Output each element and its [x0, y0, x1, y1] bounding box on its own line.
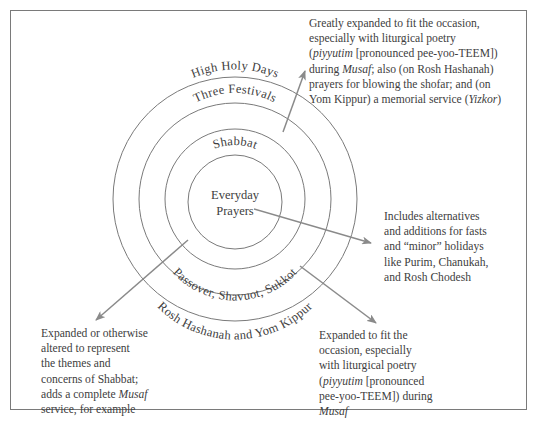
note-line: especially with liturgical poetry — [309, 31, 524, 46]
note-line: (piyyutim [pronounced — [319, 374, 489, 389]
note-line: Musaf — [319, 404, 489, 419]
note-line: Expanded to fit the — [319, 328, 489, 343]
note-everyday: Includes alternativesand additions for f… — [384, 209, 524, 285]
note-line: Yom Kippur) a memorial service (Yizkor) — [309, 92, 524, 107]
center-label-line-1: Everyday — [194, 187, 276, 203]
note-line: and additions for fasts — [384, 224, 524, 239]
center-label-everyday-prayers: Everyday Prayers — [194, 187, 276, 219]
note-line: (piyyutim [pronounced pee-yoo-TEEM]) — [309, 46, 524, 61]
note-line: adds a complete Musaf — [41, 387, 201, 402]
note-line: and Rosh Chodesh — [384, 270, 524, 285]
note-line: altered to represent — [41, 341, 201, 356]
note-line: during Musaf; also (on Rosh Hashanah) — [309, 62, 524, 77]
note-line: with liturgical poetry — [319, 358, 489, 373]
note-line: Expanded or otherwise — [41, 326, 201, 341]
note-high-holy-days: Greatly expanded to fit the occasion,esp… — [309, 16, 524, 107]
ring-label-three-festivals: Three Festivals — [191, 82, 279, 105]
note-line: like Purim, Chanukah, — [384, 255, 524, 270]
ring-label-shabbat: Shabbat — [211, 134, 260, 152]
note-line: and “minor” holidays — [384, 239, 524, 254]
note-line: Includes alternatives — [384, 209, 524, 224]
note-festivals: Expanded to fit theoccasion, especiallyw… — [319, 328, 489, 419]
note-line: concerns of Shabbat; — [41, 372, 201, 387]
note-line: pee-yoo-TEEM]) during — [319, 389, 489, 404]
note-line: Greatly expanded to fit the occasion, — [309, 16, 524, 31]
note-shabbat: Expanded or otherwisealtered to represen… — [41, 326, 201, 417]
ring-label-festivals-names: Passover, Shavuot, Sukkot — [170, 265, 299, 304]
note-line: the themes and — [41, 356, 201, 371]
center-label-line-2: Prayers — [194, 203, 276, 219]
note-line: service, for example — [41, 402, 201, 417]
note-line: prayers for blowing the shofar; and (on — [309, 77, 524, 92]
note-line: occasion, especially — [319, 343, 489, 358]
